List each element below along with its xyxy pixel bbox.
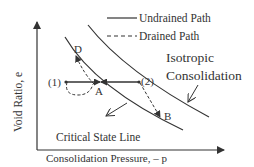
csl-label: Critical State Line — [56, 131, 140, 143]
point-1-label: (1) — [48, 76, 61, 89]
diagram-canvas: Undrained Path Drained Path Isotropic Co… — [0, 0, 254, 167]
isotropic-label: Isotropic — [166, 50, 214, 65]
csl-pointer-arrow — [106, 103, 127, 116]
drained-path-1-loop — [66, 82, 93, 95]
consolidation-label: Consolidation — [166, 68, 242, 83]
icl-pointer-arrow — [188, 85, 198, 102]
x-axis-label: Consolidation Pressure, – p — [46, 152, 167, 164]
y-axis-label: Void Ratio, e — [12, 72, 25, 132]
point-B-label: B — [164, 110, 171, 122]
point-D-label: D — [74, 43, 82, 55]
legend-drained-label: Drained Path — [139, 30, 200, 42]
point-2-label: (2) — [141, 75, 154, 88]
point-1-marker — [64, 80, 67, 83]
point-A-label: A — [95, 85, 103, 97]
legend-undrained-label: Undrained Path — [139, 12, 211, 24]
drained-path-2-to-B — [140, 83, 160, 117]
critical-state-diagram: Undrained Path Drained Path Isotropic Co… — [0, 0, 254, 167]
